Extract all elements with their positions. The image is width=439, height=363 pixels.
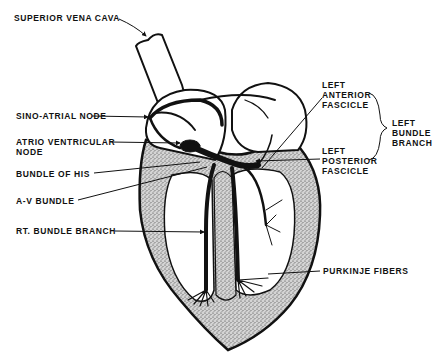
label-left-posterior-fascicle: LEFT POSTERIOR FASCICLE xyxy=(322,146,377,176)
label-bundle-of-his: BUNDLE OF HIS xyxy=(16,169,90,179)
label-lbb-line1: LEFT xyxy=(392,118,432,128)
label-atrio-ventricular-node: ATRIO VENTRICULAR NODE xyxy=(16,137,115,157)
label-laf-line3: FASCICLE xyxy=(322,100,371,110)
label-av-node-line2: NODE xyxy=(16,147,115,157)
label-rt-bundle-branch: RT. BUNDLE BRANCH xyxy=(16,226,116,236)
label-laf-line2: ANTERIOR xyxy=(322,90,371,100)
label-lbb-line3: BRANCH xyxy=(392,138,432,148)
label-lpf-line3: FASCICLE xyxy=(322,166,377,176)
label-lpf-line1: LEFT xyxy=(322,146,377,156)
label-purkinje-fibers: PURKINJE FIBERS xyxy=(323,266,409,276)
heart-conduction-diagram xyxy=(0,0,439,363)
label-left-anterior-fascicle: LEFT ANTERIOR FASCICLE xyxy=(322,80,371,110)
label-av-bundle: A-V BUNDLE xyxy=(16,196,74,206)
label-lpf-line2: POSTERIOR xyxy=(322,156,377,166)
label-sino-atrial-node: SINO-ATRIAL NODE xyxy=(16,111,107,121)
label-laf-line1: LEFT xyxy=(322,80,371,90)
label-lbb-line2: BUNDLE xyxy=(392,128,432,138)
label-superior-vena-cava: SUPERIOR VENA CAVA xyxy=(14,13,120,23)
label-left-bundle-branch: LEFT BUNDLE BRANCH xyxy=(392,118,432,148)
label-av-node-line1: ATRIO VENTRICULAR xyxy=(16,137,115,147)
left-atrium xyxy=(232,83,306,152)
